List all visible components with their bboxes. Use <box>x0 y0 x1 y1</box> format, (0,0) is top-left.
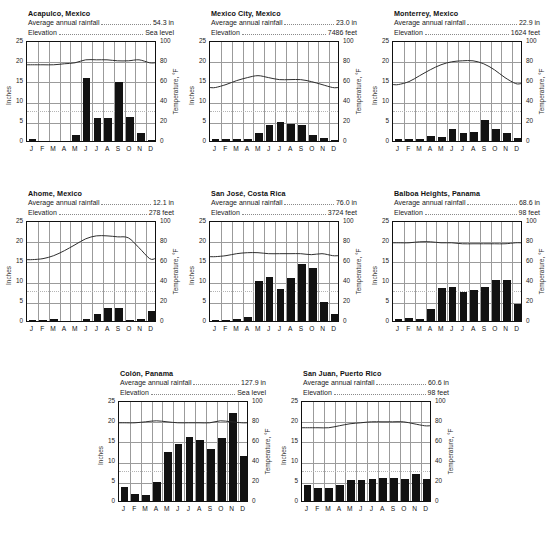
elevation-label-line: Elevation3724 feet <box>211 208 357 218</box>
month-label: J <box>26 323 37 335</box>
axis-tick-label: 60 <box>343 78 350 84</box>
month-label: J <box>80 143 91 155</box>
axis-tick-label: 5 <box>111 478 115 484</box>
month-label: F <box>37 143 48 155</box>
axis-tick-label: 5 <box>294 478 298 484</box>
axis-tick-label: 20 <box>526 118 533 124</box>
month-label: O <box>398 503 409 515</box>
month-label: O <box>123 143 134 155</box>
climate-panel: Balboa Heights, PanamaAverage annual rai… <box>366 180 549 360</box>
axis-tick-label: 15 <box>382 258 389 264</box>
panel-title: Balboa Heights, Panama <box>394 189 549 198</box>
month-label: M <box>435 323 446 335</box>
axis-tick-label: 100 <box>343 38 354 44</box>
leader-dots <box>284 198 333 205</box>
month-label: F <box>403 323 414 335</box>
elevation-label-line: Elevation98 feet <box>303 388 449 398</box>
month-label: J <box>446 143 457 155</box>
leader-dots <box>151 388 235 395</box>
month-label: J <box>209 143 220 155</box>
temperature-line <box>27 222 155 321</box>
y-axis-ticks-right: 100806040200 <box>433 398 453 502</box>
month-label: M <box>48 143 59 155</box>
plot-area <box>301 401 431 502</box>
month-label: J <box>457 143 468 155</box>
leader-dots <box>467 198 516 205</box>
month-label: M <box>69 143 80 155</box>
month-label: J <box>91 143 102 155</box>
axis-tick-label: 0 <box>385 138 389 144</box>
axis-tick-label: 20 <box>291 418 298 424</box>
axis-tick-label: 15 <box>291 438 298 444</box>
axis-tick-label: 5 <box>385 298 389 304</box>
elevation-label: Elevation <box>394 28 423 38</box>
x-axis-month-labels: JFMAMJJASOND <box>301 503 431 515</box>
axis-tick-label: 100 <box>526 218 537 224</box>
leader-dots <box>101 18 150 25</box>
rainfall-label-line: Average annual rainfall54.3 in <box>28 18 174 28</box>
elevation-label: Elevation <box>394 208 423 218</box>
axis-tick-label: 40 <box>343 278 350 284</box>
x-axis-month-labels: JFMAMJJASOND <box>26 323 156 335</box>
month-label: M <box>435 143 446 155</box>
plot-area <box>118 401 248 502</box>
axis-tick-label: 80 <box>160 58 167 64</box>
axis-tick-label: 0 <box>526 138 530 144</box>
axis-tick-label: 80 <box>252 418 259 424</box>
rainfall-value: 127.9 in <box>241 378 266 388</box>
y-axis-ticks-right: 100806040200 <box>250 398 270 502</box>
month-label: M <box>140 503 151 515</box>
axis-tick-label: 20 <box>199 238 206 244</box>
month-label: S <box>296 143 307 155</box>
axis-tick-label: 40 <box>526 278 533 284</box>
axis-tick-label: 25 <box>16 38 23 44</box>
plot-area <box>209 41 339 142</box>
axis-tick-label: 40 <box>160 278 167 284</box>
month-label: D <box>328 143 339 155</box>
elevation-label-line: ElevationSea level <box>28 28 174 38</box>
axis-tick-label: 80 <box>343 238 350 244</box>
axis-tick-label: 60 <box>343 258 350 264</box>
panel-title: Acapulco, Mexico <box>28 9 183 18</box>
rainfall-label-line: Average annual rainfall60.6 in <box>303 378 449 388</box>
month-label: M <box>48 323 59 335</box>
month-label: J <box>366 503 377 515</box>
rainfall-label-line: Average annual rainfall12.1 in <box>28 198 174 208</box>
rainfall-label-line: Average annual rainfall22.9 in <box>394 18 540 28</box>
month-label: S <box>296 323 307 335</box>
axis-tick-label: 15 <box>16 258 23 264</box>
axis-tick-label: 10 <box>108 458 115 464</box>
month-label: S <box>205 503 216 515</box>
axis-tick-label: 20 <box>160 118 167 124</box>
elevation-label-line: Elevation1624 feet <box>394 28 540 38</box>
axis-tick-label: 20 <box>435 478 442 484</box>
month-label: J <box>209 323 220 335</box>
month-label: F <box>220 323 231 335</box>
month-label: N <box>226 503 237 515</box>
climate-panel: Monterrey, MexicoAverage annual rainfall… <box>366 0 549 180</box>
month-label: D <box>511 323 522 335</box>
axis-tick-label: 60 <box>526 78 533 84</box>
temperature-line <box>302 402 430 501</box>
chart-area: InchesTemperature, °F2520151050100806040… <box>0 38 183 166</box>
panel-title: Monterrey, Mexico <box>394 9 549 18</box>
axis-tick-label: 25 <box>291 398 298 404</box>
leader-dots <box>425 208 517 215</box>
month-label: N <box>409 503 420 515</box>
elevation-label: Elevation <box>28 208 57 218</box>
rainfall-label-line: Average annual rainfall23.0 in <box>211 18 357 28</box>
month-label: J <box>80 323 91 335</box>
elevation-label: Elevation <box>120 388 149 398</box>
y-axis-ticks-left: 2520151050 <box>8 218 24 322</box>
month-label: O <box>306 323 317 335</box>
month-label: J <box>263 143 274 155</box>
climate-panel: San Juan, Puerto RicoAverage annual rain… <box>275 360 458 538</box>
x-axis-month-labels: JFMAMJJASOND <box>26 143 156 155</box>
panel-header: San José, Costa RicaAverage annual rainf… <box>183 180 366 218</box>
y-axis-ticks-left: 2520151050 <box>191 218 207 322</box>
axis-tick-label: 0 <box>160 138 164 144</box>
month-label: A <box>424 323 435 335</box>
y-axis-ticks-left: 2520151050 <box>8 38 24 142</box>
plot-area <box>392 221 522 322</box>
axis-tick-label: 15 <box>108 438 115 444</box>
